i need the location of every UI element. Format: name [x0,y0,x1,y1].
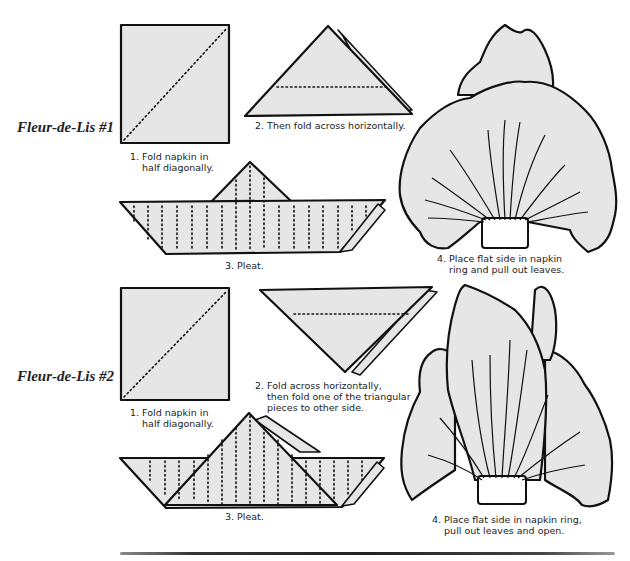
bottom-divider [120,552,615,555]
s1-step4-caption: 4. Place flat side in napkin ring and pu… [437,253,564,275]
section-title-fleur-de-lis-1: Fleur-de-Lis #1 [17,119,114,136]
section-title-fleur-de-lis-2: Fleur-de-Lis #2 [17,368,114,385]
s2-step4-fleur-diagram [401,285,612,506]
s1-step4-fleur-diagram [400,25,617,252]
s2-step1-caption: 1. Fold napkin in half diagonally. [130,407,214,429]
s1-step2-caption: 2. Then fold across horizontally. [255,120,405,131]
s2-step3-caption: 3. Pleat. [225,511,264,522]
illustrations: .fill{fill:#e6e6e6;stroke:#111;stroke-wi… [0,0,630,561]
s2-step4-caption: 4. Place flat side in napkin ring, pull … [432,514,582,536]
s1-step3-pleat-diagram [120,162,385,254]
s1-step1-square-diagram [121,25,229,143]
s2-step2-triangle-diagram [260,287,437,375]
s2-step1-square-diagram [121,288,229,400]
s2-step2-caption: 2. Fold across horizontally, then fold o… [255,380,411,413]
s1-step3-caption: 3. Pleat. [225,260,264,271]
s1-step2-triangle-diagram [245,26,412,116]
s1-step1-caption: 1. Fold napkin in half diagonally. [130,151,214,173]
